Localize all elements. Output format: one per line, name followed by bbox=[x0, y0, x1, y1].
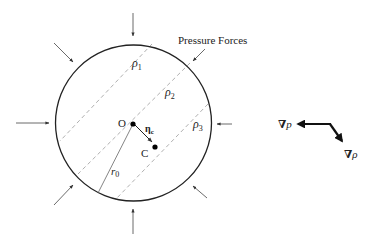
center-point-o bbox=[130, 121, 135, 126]
pressure-arrow-upper-left bbox=[54, 43, 73, 62]
pressure-arrow-lower-left bbox=[54, 185, 73, 205]
radius-label: r0 bbox=[111, 165, 119, 179]
isopycnal-label-1: ρ1 bbox=[131, 56, 142, 72]
centroid-label-c: C bbox=[141, 147, 148, 159]
pressure-forces-label: Pressure Forces bbox=[178, 34, 247, 46]
isopycnal-label-3: ρ3 bbox=[192, 117, 203, 133]
pressure-arrow-upper-right bbox=[193, 49, 205, 61]
baroclinic-parcel-diagram: Pressure Forces ρ1 ρ2 ρ3 O C ηc r0 ∇p ∇ρ bbox=[0, 0, 374, 242]
isopycnal-label-2: ρ2 bbox=[164, 85, 175, 101]
offset-vector-label: ηc bbox=[145, 123, 154, 136]
center-label-o: O bbox=[118, 117, 126, 129]
density-gradient-arrow bbox=[330, 124, 342, 141]
isopycnal-line-2 bbox=[78, 63, 190, 174]
pressure-arrow-lower-right bbox=[193, 186, 207, 198]
radius-line bbox=[98, 124, 133, 193]
pressure-gradient-label: ∇p bbox=[278, 118, 292, 130]
gradient-vectors bbox=[298, 124, 342, 141]
isopycnal-line-1 bbox=[60, 44, 152, 141]
centroid-point-c bbox=[152, 144, 157, 149]
density-gradient-label: ∇ρ bbox=[344, 148, 358, 160]
